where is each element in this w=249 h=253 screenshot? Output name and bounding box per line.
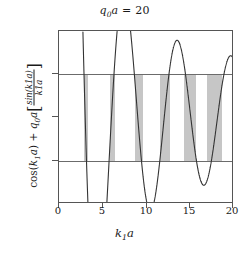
fraction-denominator: k1a — [35, 69, 44, 105]
ylabel-plus: + — [27, 133, 39, 142]
x-tick-label-0: 0 — [48, 205, 68, 216]
x-tick-label-15: 15 — [179, 205, 199, 216]
x-tick-label-5: 5 — [92, 205, 112, 216]
chart-title: q0a = 20 — [0, 4, 249, 19]
curve-plot — [59, 31, 233, 203]
title-var: a — [112, 4, 119, 17]
ylabel-cos: cos( — [27, 166, 39, 188]
title-value: 20 — [135, 4, 149, 17]
title-equals: = — [122, 4, 131, 17]
plot-area — [58, 30, 233, 203]
function-curve — [83, 31, 233, 203]
title-symbol: q — [99, 4, 106, 17]
y-axis-label: cos(k1a) + q0a[sin(k1a)k1a] — [25, 36, 44, 216]
x-tick-label-20: 20 — [222, 205, 242, 216]
ylabel-fraction: sin(k1a)k1a — [25, 69, 44, 105]
figure: q0a = 20 cos(k1a) + q0a[sin(k1a)k1a] 2 1… — [0, 0, 249, 253]
x-tick-label-10: 10 — [136, 205, 156, 216]
x-axis-label: k1a — [0, 226, 249, 242]
